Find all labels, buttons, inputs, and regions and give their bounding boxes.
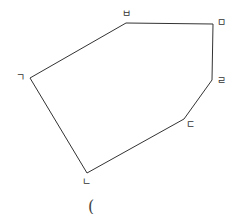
vertex-label-nieun: ㄴ [82,176,91,187]
vertex-label-giyeok: ㄱ [16,72,25,83]
vertex-label-digeut: ㄷ [186,119,195,130]
hexagon-outline [30,23,213,173]
hexagon-diagram: ㄱ ㄴ ㄷ ㄹ ㅁ ㅂ ( [0,0,233,214]
caption-parenthesis: ( [88,197,94,214]
vertex-label-mieum: ㅁ [217,17,226,28]
vertex-label-rieul: ㄹ [217,75,226,86]
vertex-label-bieup: ㅂ [122,8,131,19]
